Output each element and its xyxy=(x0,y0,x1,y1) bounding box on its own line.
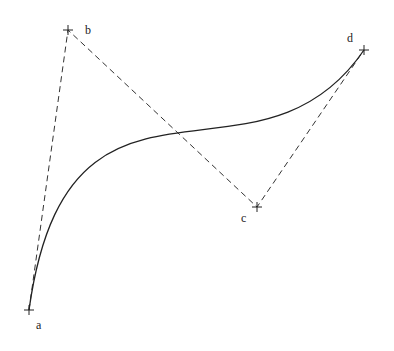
point-label: b xyxy=(85,23,91,37)
control-points: abcd xyxy=(24,23,369,332)
control-point-c: c xyxy=(241,202,262,225)
control-polygon xyxy=(29,30,364,310)
control-point-b: b xyxy=(63,23,91,37)
diagram-canvas: abcd xyxy=(0,0,394,351)
point-label: d xyxy=(347,31,353,45)
bezier-curve xyxy=(29,50,364,310)
point-label: a xyxy=(36,318,42,332)
control-point-a: a xyxy=(24,305,42,332)
point-label: c xyxy=(241,211,246,225)
bezier-diagram: abcd xyxy=(0,0,394,351)
control-point-d: d xyxy=(347,31,369,55)
